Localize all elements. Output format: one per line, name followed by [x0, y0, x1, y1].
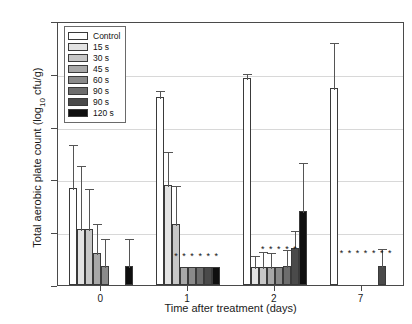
error-bar-cap — [85, 189, 94, 190]
legend-label: 30 s — [93, 53, 109, 63]
bar — [204, 267, 212, 285]
x-tick-mark — [100, 286, 101, 291]
y-axis-label-prefix: Total aerobic plate count (log — [31, 107, 43, 248]
error-bar-cap — [251, 256, 260, 257]
bar — [180, 267, 188, 285]
legend-item: 15 s — [68, 42, 120, 52]
error-bar-cap — [125, 239, 134, 240]
error-bar-cap — [330, 43, 339, 44]
legend-item: 60 s — [68, 75, 120, 85]
bar — [188, 267, 196, 285]
error-bar — [168, 152, 169, 187]
y-axis-label-suffix: cfu/g) — [31, 68, 43, 99]
error-bar — [263, 252, 264, 269]
error-bar — [81, 166, 82, 231]
y-axis-label-subscript: 10 — [38, 98, 47, 107]
bar — [156, 97, 164, 285]
bar — [69, 188, 77, 285]
y-axis-label: Total aerobic plate count (log10 cfu/g) — [31, 33, 46, 283]
error-bar-cap — [172, 186, 181, 187]
legend-item: 45 s — [68, 64, 120, 74]
legend-swatch — [68, 87, 88, 95]
gridline — [58, 181, 403, 182]
error-bar-cap — [69, 145, 78, 146]
error-bar — [255, 256, 256, 269]
legend-item: 120 s — [68, 108, 120, 118]
error-bar — [334, 43, 335, 89]
bar — [283, 266, 291, 285]
error-bar-cap — [93, 224, 102, 225]
bar — [267, 267, 275, 285]
bar — [101, 266, 109, 285]
legend-item: 30 s — [68, 53, 120, 63]
significance-asterisk: * — [298, 245, 308, 254]
bar — [93, 253, 101, 285]
legend-item: 90 s — [68, 86, 120, 96]
x-tick-mark — [361, 286, 362, 291]
bar — [77, 229, 85, 285]
legend-swatch — [68, 76, 88, 84]
legend-label: 60 s — [93, 75, 109, 85]
chart-legend: Control15 s30 s45 s60 s90 s90 s120 s — [64, 26, 126, 123]
legend-item: 90 s — [68, 97, 120, 107]
legend-swatch — [68, 65, 88, 73]
significance-asterisk: * — [211, 252, 221, 261]
bar — [251, 267, 259, 285]
x-tick-mark — [274, 286, 275, 291]
error-bar — [73, 145, 74, 189]
x-tick-mark — [187, 286, 188, 291]
gridline — [58, 234, 403, 235]
error-bar-cap — [156, 91, 165, 92]
gridline — [58, 129, 403, 130]
error-bar — [160, 91, 161, 99]
legend-swatch — [68, 98, 88, 106]
error-bar — [303, 163, 304, 213]
x-axis-label: Time after treatment (days) — [57, 302, 404, 314]
error-bar — [129, 239, 130, 268]
error-bar-cap — [243, 74, 252, 75]
legend-label: 90 s — [93, 97, 109, 107]
error-bar — [176, 186, 177, 226]
y-tick-mark — [51, 286, 57, 287]
legend-swatch — [68, 54, 88, 62]
error-bar — [89, 189, 90, 231]
legend-label: 90 s — [93, 86, 109, 96]
bar — [125, 266, 133, 285]
chart-container: Total aerobic plate count (log10 cfu/g) … — [0, 0, 412, 324]
significance-asterisk: * — [385, 249, 395, 258]
error-bar — [105, 239, 106, 268]
legend-swatch — [68, 109, 88, 117]
legend-label: 45 s — [93, 64, 109, 74]
bar — [259, 267, 267, 285]
bar — [378, 266, 386, 285]
error-bar-cap — [101, 239, 110, 240]
error-bar-cap — [164, 152, 173, 153]
bar — [85, 229, 93, 285]
bar — [212, 267, 220, 285]
error-bar — [97, 224, 98, 256]
error-bar — [271, 253, 272, 269]
legend-item: Control — [68, 31, 120, 41]
bar — [196, 267, 204, 285]
bar — [275, 267, 283, 285]
error-bar-cap — [77, 166, 86, 167]
legend-swatch — [68, 43, 88, 51]
bar — [243, 78, 251, 285]
bar — [164, 185, 172, 285]
legend-label: 15 s — [93, 42, 109, 52]
error-bar-cap — [299, 163, 308, 164]
legend-label: Control — [93, 31, 120, 41]
legend-label: 120 s — [93, 108, 114, 118]
legend-swatch — [68, 32, 88, 40]
